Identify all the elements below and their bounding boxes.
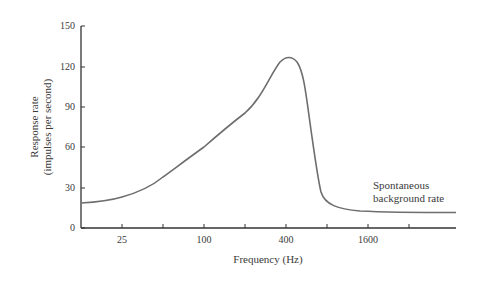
y-tick-label: 150 [60,20,75,31]
y-tick-label: 60 [65,141,75,152]
x-tick-labels: 25 100 400 1600 [117,234,378,245]
annotation-spontaneous-rate: Spontaneous background rate [373,179,444,204]
svg-text:(impulses per second): (impulses per second) [41,78,54,175]
x-tick-label: 25 [117,234,127,245]
svg-text:Response rate: Response rate [28,96,40,158]
x-axis-title: Frequency (Hz) [233,253,303,266]
chart: 0 30 60 90 120 150 25 100 400 1600 Frequ… [0,0,483,283]
x-tick-label: 100 [197,234,212,245]
y-tick-label: 120 [60,61,75,72]
y-tick-label: 90 [65,101,75,112]
y-axis-title: Response rate (impulses per second) [28,78,54,175]
svg-text:Spontaneous: Spontaneous [373,179,429,191]
y-tick-label: 0 [70,222,75,233]
y-tick-labels: 0 30 60 90 120 150 [60,20,75,233]
x-tick-label: 1600 [358,234,378,245]
y-tick-label: 30 [65,182,75,193]
x-tick-label: 400 [279,234,294,245]
svg-text:background rate: background rate [373,192,444,204]
